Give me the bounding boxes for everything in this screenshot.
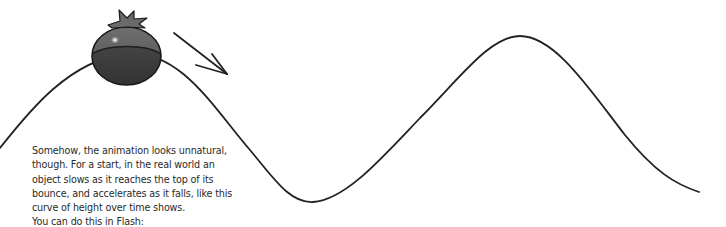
caption-line: curve of height over time shows.	[32, 201, 214, 215]
motion-arrow-icon	[174, 33, 227, 74]
caption-line: You can do this in Flash:	[32, 215, 214, 227]
caption-line: though. For a start, in the real world a…	[32, 158, 214, 172]
caption-line: Somehow, the animation looks unnatural,	[32, 144, 214, 158]
tomato-icon	[88, 10, 165, 90]
tomato-stem-icon	[108, 10, 147, 28]
bounce-illustration: Somehow, the animation looks unnatural, …	[0, 0, 726, 227]
caption-line: object slows as it reaches the top of it…	[32, 173, 214, 187]
caption-line: bounce, and accelerates as it falls, lik…	[32, 187, 214, 201]
caption-text: Somehow, the animation looks unnatural, …	[32, 144, 214, 227]
